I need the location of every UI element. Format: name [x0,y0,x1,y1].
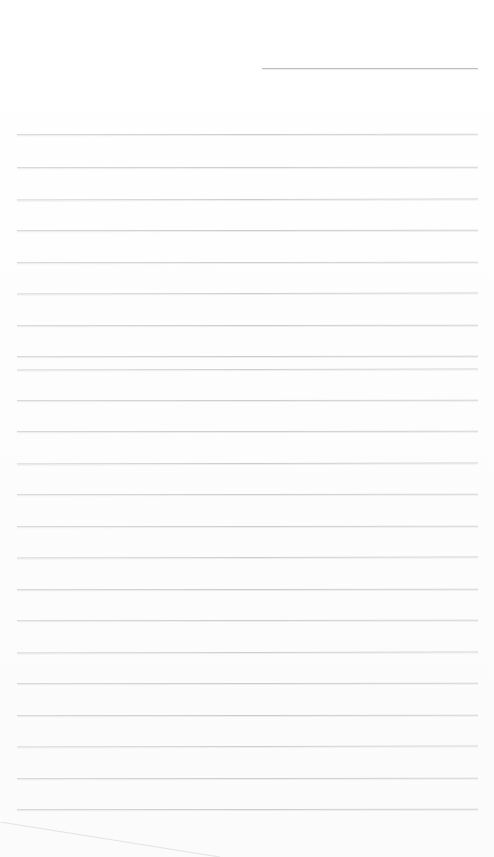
header-rule-line [262,68,478,69]
page-edge-diagonal [0,822,260,857]
rule-line [17,356,478,358]
rule-line [17,199,478,201]
page-edge-line-svg [0,822,260,857]
rule-line [17,431,478,433]
rule-line [17,230,478,232]
rule-line [17,746,478,748]
rule-line [17,683,478,685]
rule-line [17,652,478,654]
rule-line [17,589,478,591]
rule-line [17,463,478,465]
scanned-page [0,0,494,857]
paper-surface [0,0,494,857]
rule-line [17,809,478,811]
page-edge-stroke [0,822,220,857]
rule-line [17,293,478,295]
rule-line [17,557,478,559]
rule-line [17,620,478,622]
rule-line [17,715,478,717]
rule-line [17,526,478,528]
rule-line [17,494,478,496]
rule-line [17,167,478,169]
rule-line [17,369,478,371]
rule-line [17,325,478,327]
rule-line [17,778,478,780]
rule-line [17,134,478,136]
rule-line [17,400,478,402]
rule-line [17,262,478,264]
